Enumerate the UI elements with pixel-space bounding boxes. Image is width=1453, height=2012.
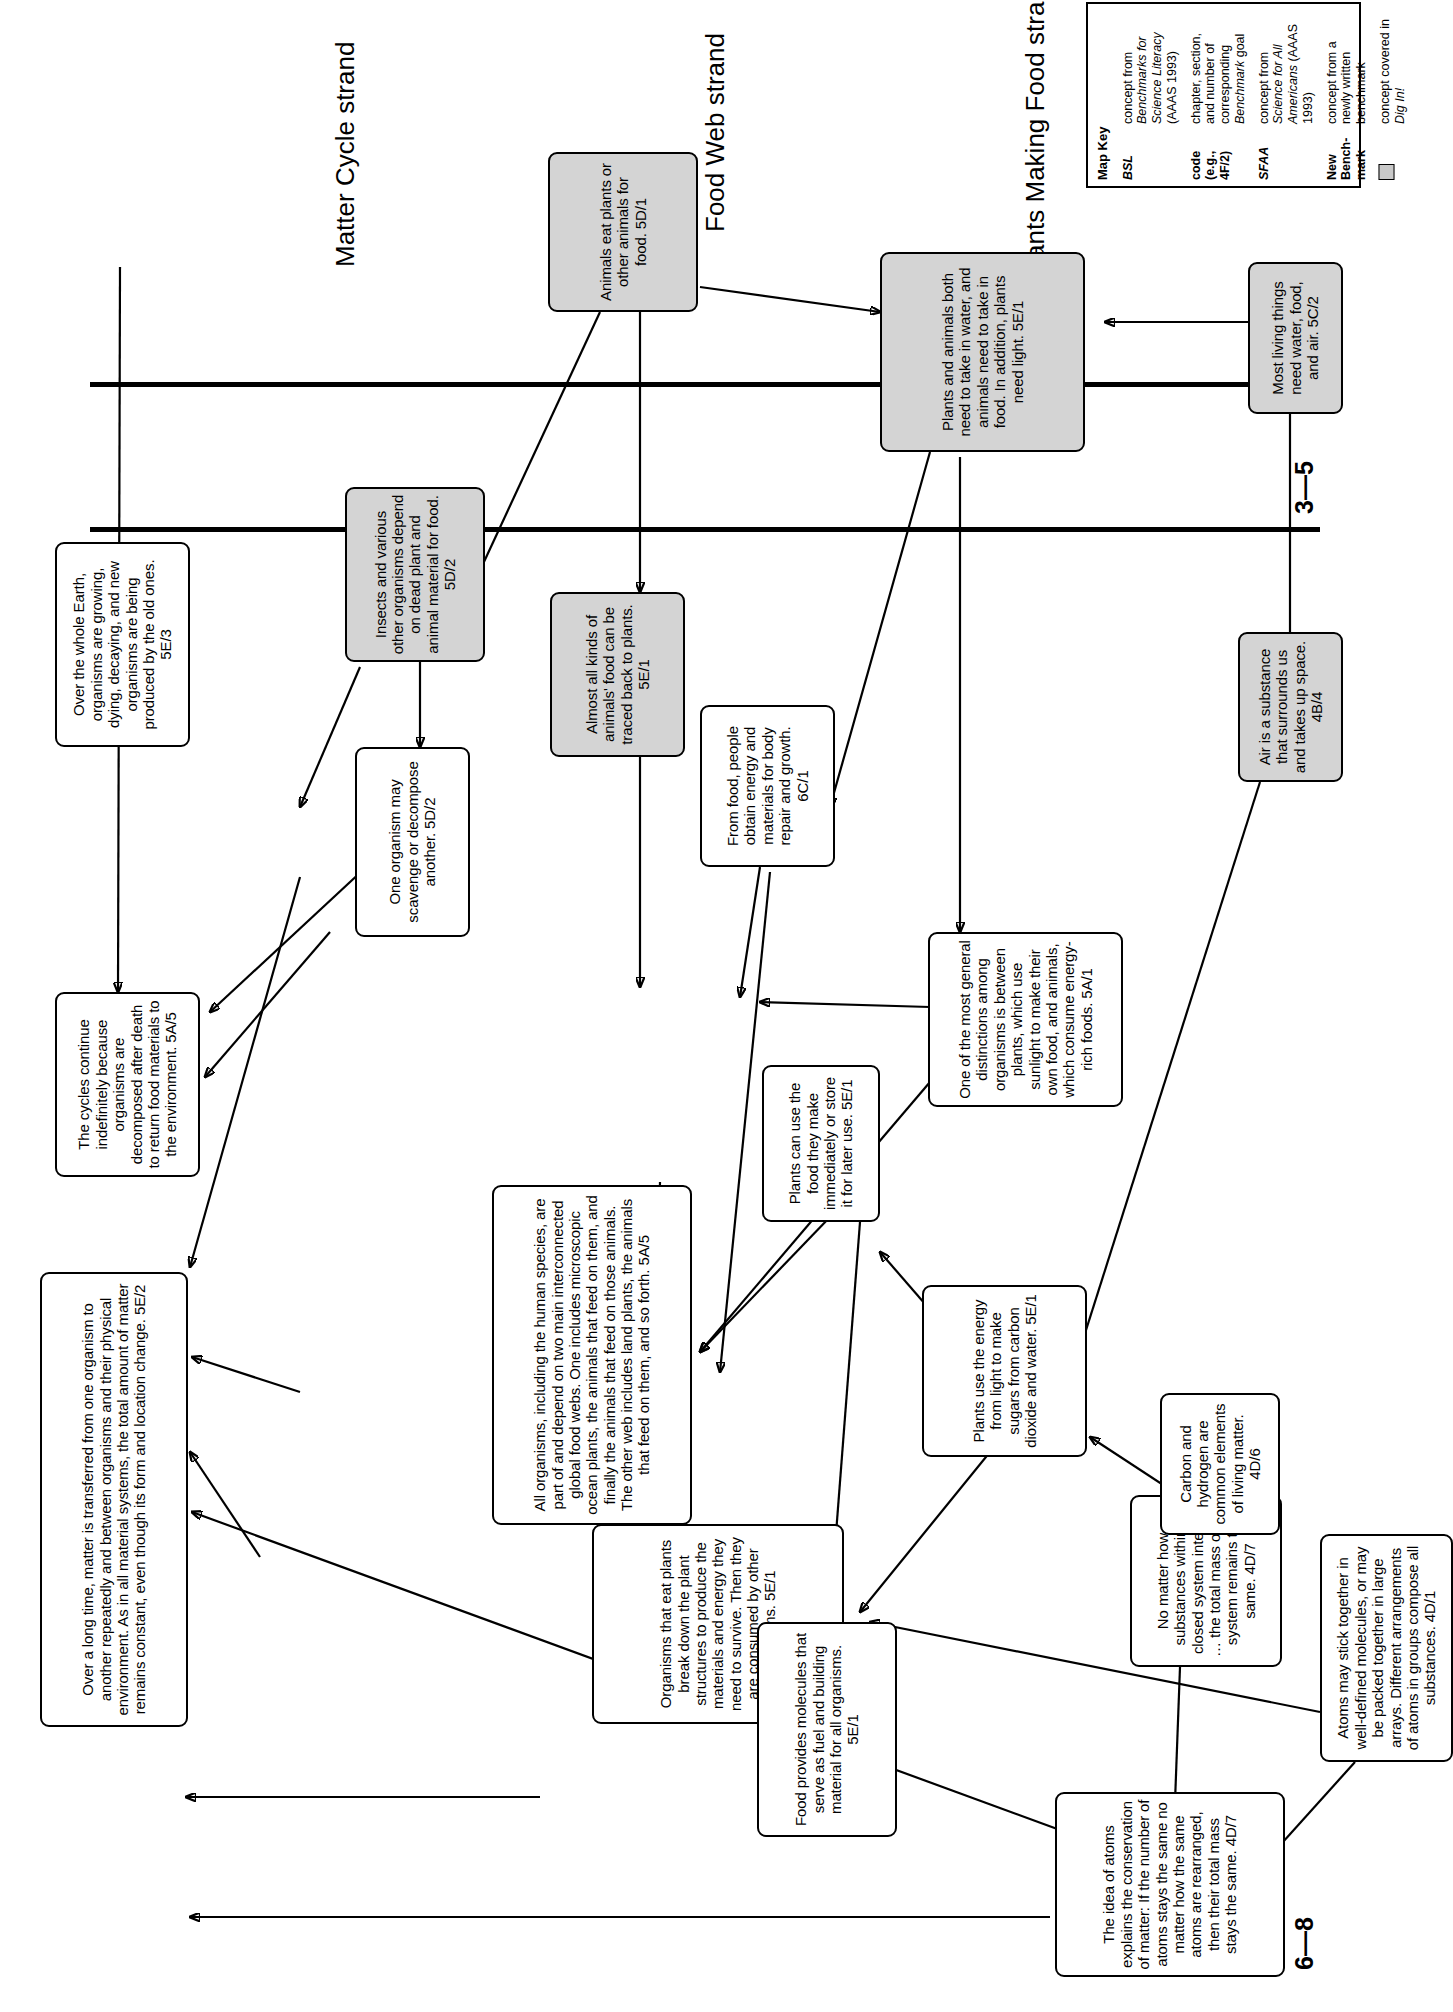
strand-label-matter-cycle: Matter Cycle strand [330, 42, 361, 267]
node-text: Over a long time, matter is transferred … [79, 1279, 149, 1720]
map-key-swatch-cell [1377, 124, 1407, 180]
node-one-organism-scavenge[interactable]: One organism may scavenge or decompose a… [355, 747, 470, 937]
node-plants-can-use-food[interactable]: Plants can use the food they make immedi… [762, 1065, 880, 1222]
band-divider-6-8-to-3-5 [90, 528, 1320, 533]
node-text: Food provides molecules that serve as fu… [792, 1629, 862, 1830]
map-key-desc-dig-in: concept covered in Dig In! [1377, 10, 1407, 124]
node-text: From food, people obtain energy and mate… [724, 712, 811, 860]
node-text: Over the whole Earth, organisms are grow… [70, 549, 174, 740]
node-text: One organism may scavenge or decompose a… [386, 754, 438, 930]
map-key-row-dig-in: concept covered in Dig In! [1377, 10, 1407, 180]
node-plants-animals-both-need[interactable]: Plants and animals both need to take in … [880, 252, 1085, 452]
node-atoms-may-stick[interactable]: Atoms may stick together in well-defined… [1320, 1534, 1453, 1762]
band-label-6-8: 6—8 [1290, 1917, 1319, 1970]
node-insects-various[interactable]: Insects and various other organisms depe… [345, 487, 485, 662]
node-all-organisms-food-webs[interactable]: All organisms, including the human speci… [492, 1185, 692, 1525]
node-over-whole-earth[interactable]: Over the whole Earth, organisms are grow… [55, 542, 190, 747]
node-text: Atoms may stick together in well-defined… [1334, 1541, 1438, 1755]
shaded-box-swatch-icon [1378, 164, 1394, 180]
node-text: Plants use the energy from light to make… [970, 1292, 1040, 1450]
strand-label-food-web: Food Web strand [700, 33, 731, 232]
node-cycles-continue[interactable]: The cycles continue indefinitely because… [55, 992, 200, 1177]
node-text: All organisms, including the human speci… [531, 1192, 653, 1518]
band-divider-3-5-to-k-2 [90, 383, 1320, 388]
node-idea-of-atoms[interactable]: The idea of atoms explains the conservat… [1055, 1792, 1285, 1977]
node-carbon-hydrogen[interactable]: Carbon and hydrogen are common elements … [1160, 1393, 1280, 1535]
node-text: Most living things need water, food, and… [1269, 269, 1321, 407]
node-plants-use-energy[interactable]: Plants use the energy from light to make… [922, 1285, 1087, 1457]
node-text: One of the most general distinctions amo… [956, 939, 1095, 1100]
key-desc-plain: concept covered in [1377, 19, 1391, 124]
node-animals-eat-plants[interactable]: Animals eat plants or other animals for … [548, 152, 698, 312]
node-text: The idea of atoms explains the conservat… [1100, 1799, 1239, 1970]
node-text: Insects and various other organisms depe… [372, 494, 459, 655]
node-text: Plants can use the food they make immedi… [786, 1072, 856, 1215]
node-almost-all-kinds[interactable]: Almost all kinds of animals' food can be… [550, 592, 685, 757]
node-text: Carbon and hydrogen are common elements … [1177, 1400, 1264, 1528]
strand-label-plants-making-food: Plants Making Food strand [1020, 0, 1051, 282]
key-desc-italic: Dig In! [1392, 88, 1406, 124]
node-most-living-things[interactable]: Most living things need water, food, and… [1248, 262, 1343, 414]
node-text: The cycles continue indefinitely because… [75, 999, 179, 1170]
node-matter-transferred[interactable]: Over a long time, matter is transferred … [40, 1272, 188, 1727]
node-text: Animals eat plants or other animals for … [597, 159, 649, 305]
node-text: Air is a substance that surrounds us and… [1256, 639, 1326, 775]
band-label-3-5: 3—5 [1290, 461, 1319, 514]
node-from-food-people[interactable]: From food, people obtain energy and mate… [700, 705, 835, 867]
node-food-provides-molecules[interactable]: Food provides molecules that serve as fu… [757, 1622, 897, 1837]
node-air-is-substance[interactable]: Air is a substance that surrounds us and… [1238, 632, 1343, 782]
node-text: Almost all kinds of animals' food can be… [583, 599, 653, 750]
node-one-of-most-general[interactable]: One of the most general distinctions amo… [928, 932, 1123, 1107]
node-text: Plants and animals both need to take in … [939, 259, 1026, 445]
